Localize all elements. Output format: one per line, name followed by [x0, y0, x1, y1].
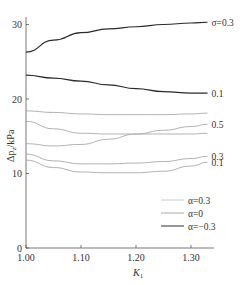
x-tick-label: 1.10: [72, 252, 90, 263]
curve-line: [26, 160, 208, 173]
y-axis-title: Δpz/kPa: [5, 129, 18, 162]
curves: [26, 22, 208, 172]
legend-label: α=−0.3: [188, 222, 216, 232]
x-tick-label: 1.20: [127, 252, 145, 263]
curve-label: 0.5: [212, 120, 224, 130]
curve-line: [26, 111, 208, 115]
curve-line: [26, 22, 208, 52]
y-tick-label: 20: [12, 94, 22, 105]
chart: 0102030 1.001.101.201.30 Δpz/kPa K1 σ=0.…: [0, 0, 244, 285]
curve-label: σ=0.3: [212, 18, 235, 28]
legend-label: α=0: [188, 209, 203, 219]
axes: [26, 17, 214, 248]
curve-line: [26, 154, 208, 164]
y-tick-label: 30: [12, 19, 22, 30]
x-tick-label: 1.30: [182, 252, 200, 263]
curve-label: 0.1: [212, 158, 224, 168]
curve-line: [26, 75, 208, 93]
y-tick-label: 10: [12, 168, 22, 179]
curve-labels: σ=0.30.10.50.30.1: [212, 18, 235, 168]
curve-line: [26, 124, 208, 146]
x-axis-title: K1: [132, 267, 144, 280]
legend: α=0.3α=0α=−0.3: [161, 196, 216, 232]
curve-label: 0.1: [212, 89, 224, 99]
legend-label: α=0.3: [188, 196, 210, 206]
x-tick-label: 1.00: [17, 252, 35, 263]
